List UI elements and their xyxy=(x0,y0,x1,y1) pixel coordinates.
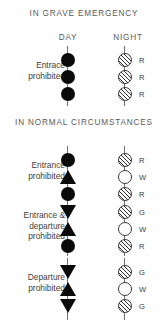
lamp-letter: R xyxy=(139,155,145,164)
day-shape-slot xyxy=(55,280,81,297)
night-lamp-slot: W xyxy=(112,280,138,297)
day-shape-slot xyxy=(55,151,81,168)
lamp-letter: W xyxy=(139,224,146,233)
black-circle-icon xyxy=(61,153,75,167)
night-lamp-slot: R xyxy=(112,85,138,102)
lamp-letter: G xyxy=(139,301,145,310)
night-lamp-slot: R xyxy=(112,151,138,168)
red-lamp-icon xyxy=(118,53,132,67)
lamp-letter: W xyxy=(139,284,146,293)
night-signal-mast-row1: R R R xyxy=(112,46,138,106)
black-circle-icon xyxy=(61,239,75,253)
day-shape-slot xyxy=(55,203,81,220)
lamp-letter: R xyxy=(139,241,145,250)
black-triangle-down-icon xyxy=(60,205,76,219)
lamp-letter: R xyxy=(139,55,145,64)
red-lamp-icon xyxy=(118,70,132,84)
night-lamp-slot: R xyxy=(112,237,138,254)
night-lamp-slot: G xyxy=(112,203,138,220)
black-circle-icon xyxy=(61,187,75,201)
column-header-night: NIGHT xyxy=(106,33,150,42)
night-signal-mast-row3: G W R xyxy=(112,198,138,256)
night-lamp-slot: G xyxy=(112,263,138,280)
black-triangle-up-icon xyxy=(60,170,76,184)
day-shape-slot xyxy=(55,297,81,314)
white-lamp-icon xyxy=(118,222,132,236)
lamp-letter: W xyxy=(139,172,146,181)
night-lamp-slot: W xyxy=(112,168,138,185)
day-shape-slot xyxy=(55,68,81,85)
day-signal-mast-row1 xyxy=(55,46,81,106)
green-lamp-icon xyxy=(118,265,132,279)
section-title-grave-emergency: IN GRAVE EMERGENCY xyxy=(0,9,168,18)
red-lamp-icon xyxy=(118,187,132,201)
black-circle-icon xyxy=(61,87,75,101)
day-signal-mast-row2 xyxy=(55,146,81,204)
lamp-letter: G xyxy=(139,267,145,276)
red-lamp-icon xyxy=(118,87,132,101)
black-triangle-up-icon xyxy=(60,282,76,296)
black-circle-icon xyxy=(61,53,75,67)
column-header-day: DAY xyxy=(48,33,88,42)
lamp-letter: R xyxy=(139,89,145,98)
night-lamp-slot: R xyxy=(112,68,138,85)
green-lamp-icon xyxy=(118,205,132,219)
day-signal-mast-row4 xyxy=(55,258,81,320)
night-lamp-slot: R xyxy=(112,51,138,68)
day-shape-slot xyxy=(55,263,81,280)
signal-code-diagram: IN GRAVE EMERGENCY DAY NIGHT Entrace pro… xyxy=(0,0,168,330)
green-lamp-icon xyxy=(118,299,132,313)
white-lamp-icon xyxy=(118,282,132,296)
black-triangle-up-icon xyxy=(60,222,76,236)
day-shape-slot xyxy=(55,237,81,254)
lamp-letter: R xyxy=(139,189,145,198)
day-shape-slot xyxy=(55,51,81,68)
day-shape-slot xyxy=(55,220,81,237)
day-shape-slot xyxy=(55,168,81,185)
red-lamp-icon xyxy=(118,153,132,167)
night-lamp-slot: G xyxy=(112,297,138,314)
day-shape-slot xyxy=(55,85,81,102)
black-circle-icon xyxy=(61,70,75,84)
day-signal-mast-row3 xyxy=(55,198,81,256)
night-lamp-slot: W xyxy=(112,220,138,237)
red-lamp-icon xyxy=(118,239,132,253)
black-triangle-down-icon xyxy=(60,265,76,279)
lamp-letter: G xyxy=(139,207,145,216)
lamp-letter: R xyxy=(139,72,145,81)
black-triangle-down-icon xyxy=(60,299,76,313)
white-lamp-icon xyxy=(118,170,132,184)
night-signal-mast-row2: R W R xyxy=(112,146,138,204)
night-signal-mast-row4: G W G xyxy=(112,258,138,320)
section-title-normal-circumstances: IN NORMAL CIRCUMSTANCES xyxy=(0,118,168,127)
